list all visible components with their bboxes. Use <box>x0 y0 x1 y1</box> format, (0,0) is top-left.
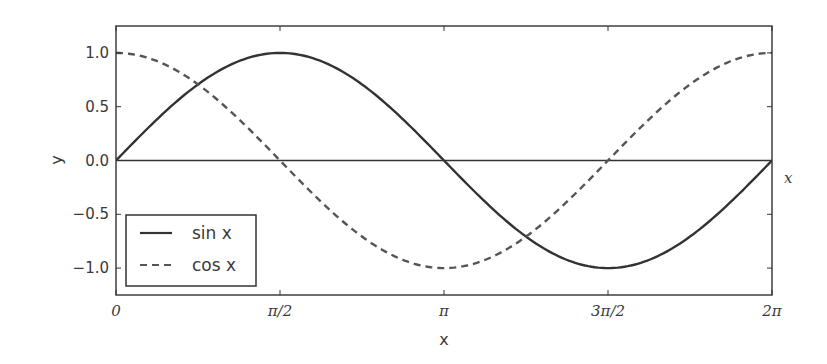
y-axis-label: y <box>47 155 66 164</box>
x-tick-label: π <box>438 302 450 320</box>
y-tick-label: 0.5 <box>85 98 109 116</box>
y-tick-label: 0.0 <box>85 152 109 170</box>
x-tick-label: 0 <box>111 302 121 320</box>
legend-box <box>126 215 256 286</box>
x-axis-annotation: x <box>784 169 793 187</box>
legend: sin x cos x <box>126 215 256 286</box>
chart: 1.00.50.0−0.5−1.0 0π/2π3π/22π x y x sin … <box>0 0 827 364</box>
y-tick-label: −1.0 <box>73 259 109 277</box>
x-axis-label: x <box>439 330 448 349</box>
x-tick-label: 2π <box>761 302 783 320</box>
y-tick-label: 1.0 <box>85 44 109 62</box>
legend-label-cos: cos x <box>192 255 236 275</box>
y-tick-label: −0.5 <box>73 205 109 223</box>
x-tick-label: 3π/2 <box>591 302 625 320</box>
x-tick-label: π/2 <box>267 302 292 320</box>
legend-label-sin: sin x <box>192 223 232 243</box>
